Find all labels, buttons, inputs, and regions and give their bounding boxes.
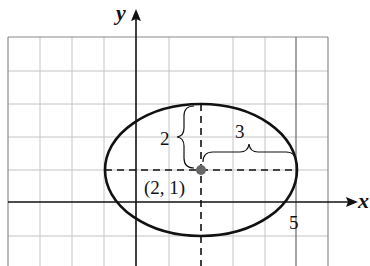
- center-label: (2, 1): [144, 177, 185, 199]
- x-tick-label-5: 5: [289, 212, 299, 233]
- ellipse-diagram: 3 2 (2, 1) 5 x y: [0, 0, 370, 266]
- semi-major-label: 3: [235, 121, 245, 142]
- horizontal-brace-icon: [203, 144, 296, 162]
- x-axis-label: x: [357, 188, 369, 213]
- center-point: [196, 165, 206, 175]
- y-axis-label: y: [113, 0, 126, 25]
- semi-minor-label: 2: [160, 128, 170, 149]
